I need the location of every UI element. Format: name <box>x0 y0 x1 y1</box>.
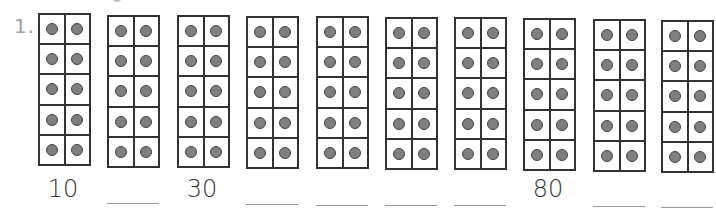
counter-dot-icon <box>324 26 336 38</box>
answer-blank[interactable] <box>661 207 713 208</box>
counter-dot-icon <box>279 56 291 68</box>
counter-dot-icon <box>254 117 266 129</box>
counter-dot-icon <box>462 27 474 39</box>
answer-blank[interactable] <box>107 203 159 204</box>
counter-dot-icon <box>694 151 706 163</box>
frame-cell <box>481 109 507 139</box>
frame-cell <box>134 107 160 137</box>
frame-cell <box>688 112 714 142</box>
counter-dot-icon <box>140 25 152 37</box>
counter-dot-icon <box>46 144 58 156</box>
counter-dot-icon <box>349 86 361 98</box>
frame-cell <box>108 76 134 106</box>
frame-cell <box>247 77 273 107</box>
question-number: 1. <box>14 14 35 38</box>
counter-dot-icon <box>140 85 152 97</box>
frame-cell <box>620 50 646 80</box>
counter-dot-icon <box>115 55 127 67</box>
frame-cell <box>108 107 134 137</box>
frame-cell <box>134 46 160 76</box>
frame-cell <box>317 47 343 77</box>
counter-dot-icon <box>71 53 83 65</box>
answer-blank[interactable] <box>316 205 368 206</box>
counter-dot-icon <box>115 146 127 158</box>
counter-dot-icon <box>46 83 58 95</box>
frame-cell <box>412 109 438 139</box>
frame-cell <box>247 47 273 77</box>
counter-dot-icon <box>487 87 499 99</box>
counter-dot-icon <box>462 118 474 130</box>
counter-dot-icon <box>279 147 291 159</box>
frame-cell <box>65 44 91 74</box>
frame-cell <box>550 49 576 79</box>
frame-cell <box>594 80 620 110</box>
frame-cell <box>65 74 91 104</box>
counter-dot-icon <box>324 86 336 98</box>
frame-cell <box>343 17 369 47</box>
counter-dot-icon <box>210 85 222 97</box>
frame-cell <box>247 17 273 47</box>
counter-dot-icon <box>210 146 222 158</box>
answer-blank[interactable] <box>246 204 298 205</box>
frame-cell <box>39 74 65 104</box>
frame-cell <box>455 139 481 169</box>
counter-dot-icon <box>115 25 127 37</box>
frame-cell <box>412 18 438 48</box>
counter-dot-icon <box>279 117 291 129</box>
frame-cell <box>550 19 576 49</box>
counter-dot-icon <box>349 117 361 129</box>
frame-cell <box>620 20 646 50</box>
counter-dot-icon <box>324 147 336 159</box>
counter-dot-icon <box>669 30 681 42</box>
counter-dot-icon <box>487 118 499 130</box>
frame-cell <box>317 108 343 138</box>
frame-cell <box>550 110 576 140</box>
counter-dot-icon <box>626 150 638 162</box>
counter-dot-icon <box>601 89 613 101</box>
frame-cell <box>386 139 412 169</box>
ten-frame <box>246 16 299 169</box>
counter-dot-icon <box>418 57 430 69</box>
answer-blank[interactable] <box>385 205 437 206</box>
counter-dot-icon <box>694 90 706 102</box>
counter-dot-icon <box>185 116 197 128</box>
frame-cell <box>178 107 204 137</box>
counter-dot-icon <box>254 147 266 159</box>
ten-frame <box>593 19 646 172</box>
counter-dot-icon <box>210 25 222 37</box>
counter-dot-icon <box>556 149 568 161</box>
counter-dot-icon <box>418 27 430 39</box>
frame-cell <box>273 138 299 168</box>
frame-cell <box>620 111 646 141</box>
frame-cell <box>688 51 714 81</box>
counter-dot-icon <box>531 58 543 70</box>
answer-blank[interactable] <box>593 206 645 207</box>
frame-cell <box>386 109 412 139</box>
counter-dot-icon <box>669 151 681 163</box>
counter-dot-icon <box>349 56 361 68</box>
counter-dot-icon <box>349 147 361 159</box>
counter-dot-icon <box>418 118 430 130</box>
frame-cell <box>65 105 91 135</box>
counter-dot-icon <box>71 114 83 126</box>
counter-dot-icon <box>185 85 197 97</box>
frame-cell <box>343 77 369 107</box>
counter-dot-icon <box>487 27 499 39</box>
frame-cell <box>455 48 481 78</box>
answer-label: 30 <box>175 175 229 203</box>
counter-dot-icon <box>531 28 543 40</box>
frame-cell <box>134 137 160 167</box>
answer-blank[interactable] <box>454 205 506 206</box>
counter-dot-icon <box>601 59 613 71</box>
frame-cell <box>594 111 620 141</box>
counter-dot-icon <box>210 116 222 128</box>
counter-dot-icon <box>556 28 568 40</box>
frame-cell <box>386 48 412 78</box>
counter-dot-icon <box>393 118 405 130</box>
ten-frame <box>107 15 160 168</box>
frame-cell <box>481 18 507 48</box>
counter-dot-icon <box>531 119 543 131</box>
partial-heading-glyph <box>112 0 122 2</box>
frame-cell <box>481 139 507 169</box>
frame-cell <box>204 107 230 137</box>
